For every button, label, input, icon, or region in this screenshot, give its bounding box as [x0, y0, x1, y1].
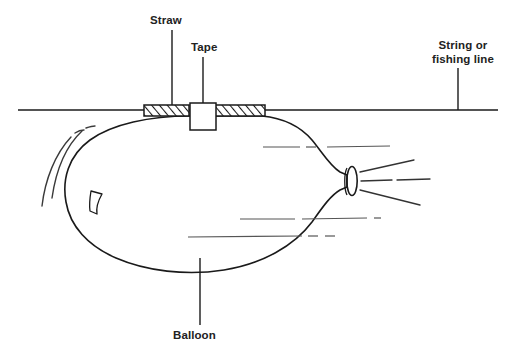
label-string-line1: String or	[439, 39, 488, 51]
label-string-or-fishing-line: String orfishing line	[432, 39, 494, 66]
balloon-contour-lines	[188, 146, 390, 237]
balloon-outline	[65, 116, 347, 273]
straw-segment-left	[144, 105, 189, 116]
label-balloon: Balloon	[173, 329, 216, 343]
balloon-nozzle	[347, 167, 357, 196]
balloon-highlight-mark	[90, 191, 102, 214]
label-string-line2: fishing line	[432, 53, 494, 65]
straw-segment-right	[215, 105, 265, 116]
air-jet-lines	[360, 160, 430, 205]
diagram-canvas: Straw Tape String orfishing line Balloon	[0, 0, 516, 359]
label-straw: Straw	[150, 14, 182, 28]
label-tape: Tape	[191, 41, 217, 55]
tape-box	[190, 103, 216, 130]
